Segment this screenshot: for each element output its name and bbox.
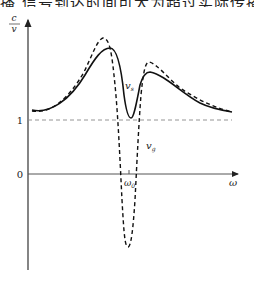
dispersion-diagram: c v 1 0 ω ω0 vs vg bbox=[0, 0, 254, 286]
y-axis-label-denominator: v bbox=[11, 24, 16, 34]
curve-label-vg: vg bbox=[146, 140, 156, 153]
tick-label-zero: 0 bbox=[17, 169, 23, 180]
dashed-curve-vg bbox=[32, 38, 232, 247]
curve-label-vs-subscript: s bbox=[131, 85, 134, 92]
y-axis-label-numerator: c bbox=[11, 13, 16, 23]
curve-label-vs: vs bbox=[125, 80, 134, 92]
resonance-label-subscript: 0 bbox=[131, 182, 135, 189]
curve-label-vg-subscript: g bbox=[152, 145, 156, 153]
solid-curve-vs bbox=[32, 48, 232, 118]
tick-label-one: 1 bbox=[17, 115, 23, 126]
resonance-label: ω0 bbox=[124, 178, 135, 189]
x-axis-label: ω bbox=[229, 177, 237, 188]
